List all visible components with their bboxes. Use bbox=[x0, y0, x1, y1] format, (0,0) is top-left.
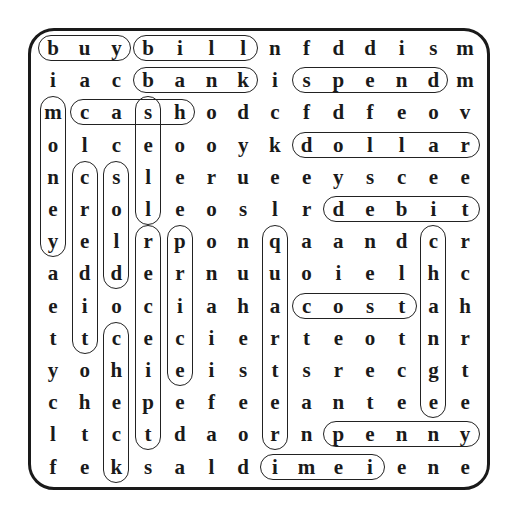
letter-cell[interactable]: i bbox=[197, 323, 227, 353]
letter-cell[interactable]: y bbox=[38, 355, 68, 385]
letter-cell[interactable]: r bbox=[450, 323, 480, 353]
letter-cell[interactable]: a bbox=[292, 226, 322, 256]
letter-cell[interactable]: e bbox=[165, 162, 195, 192]
letter-cell[interactable]: e bbox=[228, 323, 258, 353]
letter-cell[interactable]: e bbox=[133, 323, 163, 353]
letter-cell[interactable]: a bbox=[418, 130, 448, 160]
letter-cell[interactable]: i bbox=[70, 291, 100, 321]
letter-cell[interactable]: s bbox=[355, 291, 385, 321]
letter-cell[interactable]: i bbox=[355, 452, 385, 482]
letter-cell[interactable]: l bbox=[133, 194, 163, 224]
letter-cell[interactable]: n bbox=[387, 419, 417, 449]
letter-cell[interactable]: a bbox=[260, 291, 290, 321]
letter-cell[interactable]: l bbox=[70, 130, 100, 160]
letter-cell[interactable]: p bbox=[323, 419, 353, 449]
letter-cell[interactable]: r bbox=[323, 355, 353, 385]
letter-cell[interactable]: u bbox=[260, 258, 290, 288]
letter-cell[interactable]: t bbox=[70, 419, 100, 449]
letter-cell[interactable]: e bbox=[38, 291, 68, 321]
letter-cell[interactable]: f bbox=[197, 387, 227, 417]
letter-cell[interactable]: d bbox=[165, 419, 195, 449]
letter-cell[interactable]: e bbox=[355, 65, 385, 95]
letter-cell[interactable]: e bbox=[228, 387, 258, 417]
letter-cell[interactable]: t bbox=[133, 419, 163, 449]
letter-cell[interactable]: a bbox=[101, 97, 131, 127]
letter-cell[interactable]: n bbox=[197, 65, 227, 95]
letter-cell[interactable]: n bbox=[228, 226, 258, 256]
letter-cell[interactable]: t bbox=[387, 291, 417, 321]
letter-cell[interactable]: f bbox=[38, 452, 68, 482]
letter-cell[interactable]: e bbox=[387, 387, 417, 417]
letter-cell[interactable]: t bbox=[38, 323, 68, 353]
letter-cell[interactable]: q bbox=[260, 226, 290, 256]
letter-cell[interactable]: s bbox=[101, 162, 131, 192]
letter-cell[interactable]: d bbox=[70, 258, 100, 288]
letter-cell[interactable]: c bbox=[70, 162, 100, 192]
letter-cell[interactable]: y bbox=[38, 226, 68, 256]
letter-cell[interactable]: e bbox=[450, 452, 480, 482]
letter-cell[interactable]: s bbox=[228, 355, 258, 385]
letter-cell[interactable]: f bbox=[355, 97, 385, 127]
letter-cell[interactable]: o bbox=[323, 291, 353, 321]
letter-cell[interactable]: c bbox=[387, 355, 417, 385]
letter-cell[interactable]: d bbox=[355, 33, 385, 63]
letter-cell[interactable]: m bbox=[292, 452, 322, 482]
letter-cell[interactable]: e bbox=[133, 258, 163, 288]
letter-cell[interactable]: n bbox=[387, 65, 417, 95]
letter-cell[interactable]: h bbox=[70, 387, 100, 417]
letter-cell[interactable]: e bbox=[450, 387, 480, 417]
letter-cell[interactable]: r bbox=[450, 130, 480, 160]
letter-cell[interactable]: e bbox=[260, 387, 290, 417]
letter-cell[interactable]: d bbox=[101, 258, 131, 288]
letter-cell[interactable]: e bbox=[133, 130, 163, 160]
letter-cell[interactable]: c bbox=[101, 419, 131, 449]
letter-cell[interactable]: l bbox=[387, 130, 417, 160]
letter-cell[interactable]: i bbox=[165, 291, 195, 321]
letter-cell[interactable]: i bbox=[323, 258, 353, 288]
letter-cell[interactable]: d bbox=[418, 65, 448, 95]
letter-cell[interactable]: d bbox=[228, 97, 258, 127]
letter-cell[interactable]: b bbox=[133, 65, 163, 95]
letter-cell[interactable]: n bbox=[418, 419, 448, 449]
letter-cell[interactable]: y bbox=[101, 33, 131, 63]
letter-cell[interactable]: s bbox=[133, 97, 163, 127]
letter-cell[interactable]: m bbox=[450, 33, 480, 63]
letter-cell[interactable]: h bbox=[450, 291, 480, 321]
letter-cell[interactable]: m bbox=[450, 65, 480, 95]
letter-cell[interactable]: c bbox=[387, 162, 417, 192]
letter-cell[interactable]: h bbox=[418, 258, 448, 288]
letter-cell[interactable]: e bbox=[38, 194, 68, 224]
letter-cell[interactable]: o bbox=[323, 130, 353, 160]
letter-cell[interactable]: s bbox=[292, 65, 322, 95]
letter-cell[interactable]: r bbox=[292, 194, 322, 224]
letter-cell[interactable]: c bbox=[165, 323, 195, 353]
letter-cell[interactable]: e bbox=[292, 162, 322, 192]
letter-cell[interactable]: u bbox=[228, 162, 258, 192]
letter-cell[interactable]: e bbox=[70, 226, 100, 256]
letter-cell[interactable]: e bbox=[418, 387, 448, 417]
letter-cell[interactable]: d bbox=[323, 97, 353, 127]
letter-cell[interactable]: l bbox=[133, 162, 163, 192]
letter-cell[interactable]: a bbox=[165, 65, 195, 95]
letter-cell[interactable]: t bbox=[387, 323, 417, 353]
letter-cell[interactable]: l bbox=[197, 33, 227, 63]
letter-cell[interactable]: d bbox=[323, 33, 353, 63]
letter-cell[interactable]: i bbox=[197, 355, 227, 385]
letter-cell[interactable]: o bbox=[197, 97, 227, 127]
letter-cell[interactable]: c bbox=[101, 65, 131, 95]
letter-cell[interactable]: l bbox=[387, 258, 417, 288]
letter-cell[interactable]: e bbox=[355, 258, 385, 288]
letter-cell[interactable]: b bbox=[133, 33, 163, 63]
letter-cell[interactable]: e bbox=[165, 387, 195, 417]
letter-cell[interactable]: c bbox=[450, 258, 480, 288]
letter-cell[interactable]: n bbox=[38, 162, 68, 192]
letter-cell[interactable]: i bbox=[418, 194, 448, 224]
letter-cell[interactable]: r bbox=[197, 162, 227, 192]
letter-cell[interactable]: o bbox=[70, 355, 100, 385]
letter-cell[interactable]: c bbox=[133, 291, 163, 321]
letter-cell[interactable]: c bbox=[292, 291, 322, 321]
letter-cell[interactable]: p bbox=[165, 226, 195, 256]
letter-cell[interactable]: t bbox=[260, 355, 290, 385]
letter-cell[interactable]: e bbox=[450, 162, 480, 192]
letter-cell[interactable]: o bbox=[101, 291, 131, 321]
